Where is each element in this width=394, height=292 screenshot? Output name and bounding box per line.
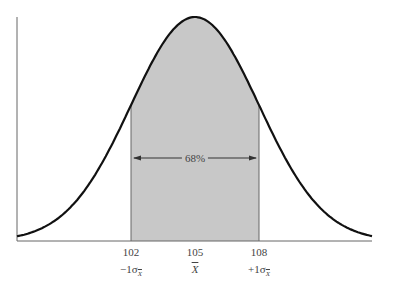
x-tick-102: 102 [123,246,140,258]
x-tick-108: 108 [251,246,268,258]
mean-label: X [192,263,199,275]
x-tick-105: 105 [187,246,204,258]
shaded-68-percent-region [131,17,259,241]
percent-label: 68% [182,152,208,164]
plus-one-sigma-label: +1σX [248,263,270,278]
minus-one-sigma-label: −1σX [120,263,142,278]
